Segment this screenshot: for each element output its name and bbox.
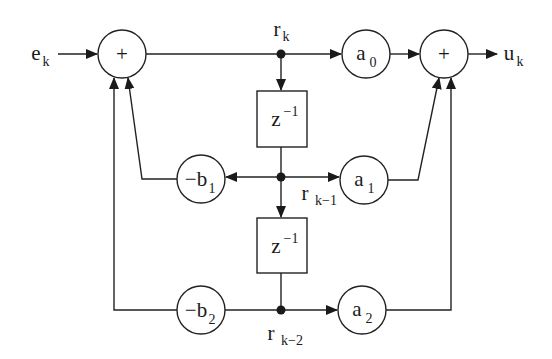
- delay1-exponent: −1: [284, 104, 299, 119]
- input-label-sub: k: [43, 54, 50, 69]
- output-label-sub: k: [517, 54, 524, 69]
- gain-a2: a 2: [338, 286, 386, 334]
- junction-rk2: [277, 306, 286, 315]
- junction-rk: [277, 50, 286, 59]
- gain-b1-label: −b: [185, 167, 207, 191]
- gain-b2-label: −b: [185, 298, 207, 322]
- summer-input-symbol: +: [116, 42, 128, 66]
- gain-a0-label: a: [356, 41, 366, 65]
- signal-label-rk2: r k−2: [268, 321, 303, 348]
- gain-a1: a 1: [340, 156, 388, 204]
- gain-a0-sub: 0: [370, 55, 377, 70]
- gain-a2-label: a: [352, 297, 362, 321]
- gain-b1: −b 1: [177, 155, 225, 203]
- summer-output-symbol: +: [438, 42, 450, 66]
- output-label-main: u: [504, 41, 515, 65]
- signal-rk-sub: k: [283, 29, 290, 44]
- delay-block-2: z −1: [257, 218, 307, 273]
- junction-rk1: [277, 173, 286, 182]
- delay1-label: z: [271, 107, 280, 131]
- delay2-exponent: −1: [284, 231, 299, 246]
- gain-a2-sub: 2: [366, 311, 373, 326]
- delay-block-1: z −1: [257, 91, 307, 147]
- signal-label-rk: r k: [274, 17, 290, 44]
- iir-filter-diagram: + + z −1 z −1 a 0 a 1 a 2 −b 1 −b 2: [0, 0, 552, 359]
- signal-rk2-sub: k−2: [281, 333, 303, 348]
- gain-b1-sub: 1: [209, 181, 216, 196]
- input-label-main: e: [31, 41, 40, 65]
- signal-rk1-sub: k−1: [315, 193, 337, 208]
- signal-rk2-main: r: [268, 321, 275, 345]
- signal-rk1-main: r: [302, 181, 309, 205]
- signal-rk-main: r: [274, 17, 281, 41]
- output-label: u k: [504, 41, 524, 69]
- gain-a0: a 0: [342, 30, 390, 78]
- gain-b2-sub: 2: [209, 312, 216, 327]
- wire-a2-to-sum: [386, 78, 451, 310]
- wire-a1-to-sum: [388, 78, 439, 180]
- signal-label-rk1: r k−1: [302, 181, 337, 208]
- wire-b2-to-sum: [114, 78, 177, 310]
- gain-a1-sub: 1: [368, 181, 375, 196]
- delay2-label: z: [271, 234, 280, 258]
- summer-output: +: [420, 30, 468, 78]
- wire-b1-to-sum: [128, 78, 177, 179]
- gain-a1-label: a: [354, 167, 364, 191]
- gain-b2: −b 2: [177, 286, 225, 334]
- summer-input: +: [98, 30, 146, 78]
- input-label: e k: [31, 41, 49, 69]
